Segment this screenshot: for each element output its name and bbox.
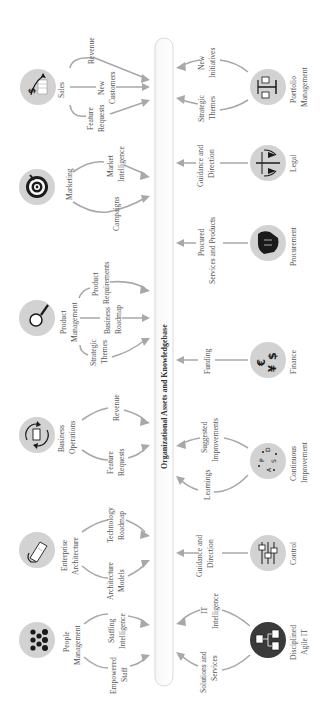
flow-label-staffing: Staffing <box>107 618 116 643</box>
people-management-node-circle <box>19 622 55 658</box>
portfolio-management-label-line2: Management <box>300 66 309 107</box>
node-people-management[interactable]: People Management <box>19 622 82 665</box>
node-product-management[interactable]: Product Management <box>19 300 79 342</box>
flow-label-direction-2: Direction <box>206 539 215 568</box>
node-enterprise-architecture[interactable]: Enterprise Architecture <box>19 532 80 575</box>
node-continuous-improvement[interactable]: P D S A Continuous Improvement <box>250 441 309 483</box>
flow-label-it-intelligence: Intelligence <box>211 593 220 629</box>
pdsa-p: P <box>258 458 265 462</box>
node-disciplined-agile-it[interactable]: Disciplined Agile IT <box>250 622 309 660</box>
flow-label-architecture: Architecture <box>106 561 115 600</box>
control-label: Control <box>289 542 298 565</box>
euro-glyph: € <box>256 359 267 367</box>
central-knowledgebase: Organizational Assets and Knowledgebase <box>155 38 173 686</box>
portfolio-management-label-line1: Portfolio <box>289 76 298 103</box>
flows-procurement: Procured Services and Products <box>176 217 248 284</box>
business-operations-label-line1: Business <box>57 425 66 452</box>
flow-label-direction: Direction <box>207 149 216 178</box>
flow-label-new-2: New <box>197 55 206 70</box>
flows-control: Guidance and Direction <box>176 535 248 577</box>
flow-label-themes: Themes <box>100 340 109 364</box>
pdsa-s: S <box>270 459 277 463</box>
product-management-label-line1: Product <box>59 309 68 334</box>
enterprise-architecture-label-line2: Architecture <box>71 536 80 575</box>
flow-label-learnings: Learnings <box>203 470 212 500</box>
flow-label-requirements: Requirements <box>102 262 111 304</box>
flow-label-customers: Customers <box>108 71 117 104</box>
flow-label-business: Business <box>103 307 112 334</box>
flow-label-services: Services <box>210 655 219 681</box>
flow-label-roadmap: Roadmap <box>114 305 123 334</box>
flow-label-services-and-products: Services and Products <box>208 217 217 284</box>
flows-enterprise-architecture: Technology Roadmap Architecture Models <box>82 507 150 600</box>
flow-label-models: Models <box>117 569 126 592</box>
flow-label-funding: Funding <box>203 348 212 374</box>
flow-label-product: Product <box>91 271 100 296</box>
flows-business-operations: Revenue Feature Requests <box>82 394 150 476</box>
flow-label-suggested: Suggested <box>200 422 209 453</box>
flow-label-themes-2: Themes <box>208 96 217 120</box>
flow-label-new: New <box>97 80 106 95</box>
flow-label-campaigns: Campaigns <box>112 197 121 231</box>
flow-label-intelligence: Intelligence <box>117 146 126 182</box>
flow-label-strategic: Strategic <box>89 338 98 366</box>
flow-label-guidance: Guidance and <box>196 145 205 187</box>
flows-continuous-improvement: Suggested Improvements Learnings <box>176 418 248 500</box>
flows-portfolio-management: New Initiatives Strategic Themes <box>176 48 248 122</box>
node-procurement[interactable]: Procurement <box>250 225 298 266</box>
flows-sales: Revenue New Customers Feature Requests <box>70 37 150 132</box>
node-portfolio-management[interactable]: Portfolio Management <box>250 66 309 107</box>
flow-label-it: IT <box>200 606 209 614</box>
flows-people-management: Staffing Intelligence Empowered Staff <box>84 613 150 694</box>
procurement-label: Procurement <box>289 226 298 266</box>
flow-label-intelligence-2: Intelligence <box>118 613 127 649</box>
flows-product-management: Product Requirements Business Roadmap St… <box>79 262 150 366</box>
organizational-assets-diagram: Organizational Assets and Knowledgebase … <box>0 0 328 728</box>
flow-label-staff: Staff <box>120 667 129 682</box>
flow-label-market: Market <box>106 154 115 177</box>
flow-label-revenue-2: Revenue <box>112 394 121 421</box>
flow-label-guidance-2: Guidance and <box>195 535 204 577</box>
people-management-label-line2: Management <box>73 624 82 665</box>
legal-label: Legal <box>289 155 298 172</box>
sales-label: Sales <box>57 82 66 98</box>
flow-label-empowered: Empowered <box>109 657 118 694</box>
continuous-improvement-label-line1: Continuous <box>289 446 298 481</box>
yen-glyph: ¥ <box>267 365 278 372</box>
flow-label-feature-2: Feature <box>106 451 115 474</box>
svg-text:$: $ <box>27 88 37 94</box>
node-control[interactable]: Control <box>250 535 298 571</box>
business-operations-label-line2: Operations <box>68 421 77 454</box>
node-finance[interactable]: $ € ¥ Finance <box>250 342 298 378</box>
finance-label: Finance <box>289 349 298 374</box>
pdsa-d: D <box>264 447 271 452</box>
product-management-label-line2: Management <box>70 301 79 342</box>
flow-label-strategic-2: Strategic <box>197 94 206 122</box>
flow-label-feature: Feature <box>86 107 95 130</box>
flows-finance: Funding <box>176 348 248 374</box>
central-label: Organizational Assets and Knowledgebase <box>160 324 169 469</box>
flows-legal: Guidance and Direction <box>176 145 248 187</box>
flow-label-roadmap-2: Roadmap <box>117 511 126 540</box>
flow-label-initiatives: Initiatives <box>208 48 217 78</box>
flow-label-technology: Technology <box>106 507 115 543</box>
node-marketing[interactable]: Marketing <box>19 168 74 205</box>
dollar-glyph: $ <box>266 352 279 360</box>
disciplined-agile-it-label-line1: Disciplined <box>289 625 298 660</box>
sliders-icon <box>259 542 277 564</box>
flow-label-improvements: Improvements <box>211 418 220 462</box>
flow-label-solutions-and: Solutions and <box>199 651 208 693</box>
disciplined-agile-it-label-line2: Agile IT <box>300 629 309 655</box>
node-business-operations[interactable]: Business Operations <box>19 417 77 454</box>
flow-label-requests: Requests <box>97 105 106 132</box>
marketing-label: Marketing <box>65 168 74 200</box>
node-sales[interactable]: $ Sales <box>20 69 66 105</box>
continuous-improvement-label-line2: Improvement <box>300 441 309 483</box>
flow-label-revenue: Revenue <box>87 37 96 64</box>
node-legal[interactable]: Legal <box>250 145 298 181</box>
people-management-label-line1: People <box>62 631 71 652</box>
flows-marketing: Market Intelligence Campaigns <box>73 146 150 231</box>
enterprise-architecture-label-line1: Enterprise <box>60 539 69 571</box>
flow-label-procured: Procured <box>197 228 206 256</box>
flow-label-requests-2: Requests <box>117 449 126 476</box>
